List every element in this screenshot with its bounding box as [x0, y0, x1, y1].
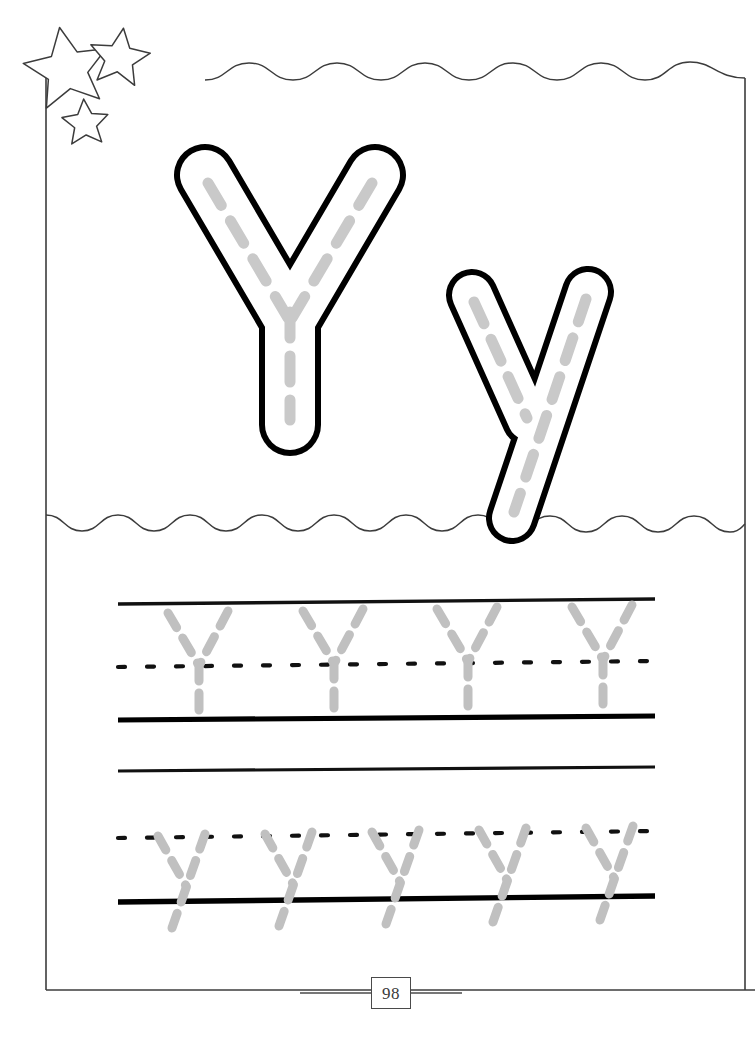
page-number: 98 [382, 985, 400, 1002]
page-number-box: 98 [371, 977, 411, 1009]
worksheet-canvas [0, 0, 755, 1054]
